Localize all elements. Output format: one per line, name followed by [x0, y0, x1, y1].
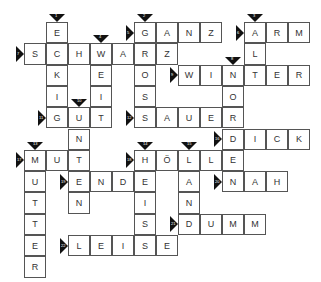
grid-cell[interactable]: L: [68, 235, 90, 256]
clue-number: 14: [143, 142, 147, 146]
clue-number: 10: [77, 99, 81, 103]
grid-cell[interactable]: L: [200, 150, 222, 171]
grid-cell[interactable]: R: [134, 43, 156, 64]
grid-cell[interactable]: E: [24, 235, 46, 256]
grid-cell[interactable]: A: [156, 22, 178, 43]
clue-number: 21: [171, 222, 175, 226]
grid-cell[interactable]: H: [68, 43, 90, 64]
grid-cell[interactable]: A: [112, 43, 134, 64]
grid-cell[interactable]: A: [156, 107, 178, 128]
grid-cell[interactable]: E: [46, 22, 68, 43]
grid-cell[interactable]: K: [288, 129, 310, 150]
grid-cell[interactable]: T: [68, 150, 90, 171]
grid-cell[interactable]: I: [90, 86, 112, 107]
grid-cell[interactable]: A: [244, 22, 266, 43]
grid-cell[interactable]: D: [178, 214, 200, 235]
grid-cell[interactable]: S: [134, 86, 156, 107]
grid-cell[interactable]: E: [90, 65, 112, 86]
grid-cell[interactable]: Z: [200, 22, 222, 43]
grid-cell[interactable]: O: [222, 86, 244, 107]
clue-number: 5: [127, 31, 129, 35]
clue-number: 22: [61, 244, 65, 248]
grid-cell[interactable]: E: [200, 107, 222, 128]
clue-number: 6: [237, 31, 239, 35]
grid-cell[interactable]: H: [134, 150, 156, 171]
grid-cell[interactable]: K: [46, 65, 68, 86]
clue-number: 19: [61, 180, 65, 184]
clue-number: 3: [253, 14, 255, 18]
grid-cell[interactable]: U: [200, 214, 222, 235]
clue-number: 18: [127, 158, 131, 162]
grid-cell[interactable]: R: [24, 256, 46, 277]
clue-number: 15: [187, 142, 191, 146]
grid-cell[interactable]: E: [156, 235, 178, 256]
grid-cell[interactable]: U: [68, 107, 90, 128]
grid-cell[interactable]: D: [222, 129, 244, 150]
grid-cell[interactable]: I: [112, 235, 134, 256]
grid-cell[interactable]: U: [178, 107, 200, 128]
grid-cell[interactable]: S: [24, 43, 46, 64]
grid-cell[interactable]: N: [68, 192, 90, 213]
clue-number: 2: [143, 14, 145, 18]
grid-cell[interactable]: W: [178, 65, 200, 86]
grid-cell[interactable]: N: [90, 171, 112, 192]
grid-cell[interactable]: N: [222, 171, 244, 192]
crossword-grid: ECKIGGROSSALTWEITANZRMSHAZNORDWIERUNTENA…: [0, 0, 321, 282]
grid-cell[interactable]: H: [266, 171, 288, 192]
grid-cell[interactable]: Z: [156, 43, 178, 64]
grid-cell[interactable]: U: [24, 171, 46, 192]
grid-cell[interactable]: E: [90, 235, 112, 256]
grid-cell[interactable]: R: [266, 22, 288, 43]
grid-cell[interactable]: T: [24, 214, 46, 235]
clue-number: 4: [99, 35, 101, 39]
grid-cell[interactable]: E: [222, 150, 244, 171]
grid-cell[interactable]: I: [134, 192, 156, 213]
grid-cell[interactable]: N: [178, 192, 200, 213]
clue-number: 12: [127, 116, 131, 120]
grid-cell[interactable]: S: [134, 214, 156, 235]
grid-cell[interactable]: N: [222, 65, 244, 86]
grid-cell[interactable]: S: [134, 107, 156, 128]
grid-cell[interactable]: M: [222, 214, 244, 235]
grid-cell[interactable]: C: [266, 129, 288, 150]
clue-number: 16: [215, 137, 219, 141]
grid-cell[interactable]: E: [68, 171, 90, 192]
grid-cell[interactable]: A: [244, 171, 266, 192]
grid-cell[interactable]: O: [134, 65, 156, 86]
grid-cell[interactable]: N: [178, 22, 200, 43]
grid-cell[interactable]: R: [288, 65, 310, 86]
clue-number: 20: [215, 180, 219, 184]
grid-cell[interactable]: C: [46, 43, 68, 64]
grid-cell[interactable]: L: [244, 43, 266, 64]
grid-cell[interactable]: G: [46, 107, 68, 128]
clue-number: 13: [33, 142, 37, 146]
grid-cell[interactable]: T: [90, 107, 112, 128]
grid-cell[interactable]: L: [178, 150, 200, 171]
grid-cell[interactable]: A: [178, 171, 200, 192]
clue-number: 11: [39, 116, 43, 120]
grid-cell[interactable]: M: [24, 150, 46, 171]
grid-cell[interactable]: I: [46, 86, 68, 107]
grid-cell[interactable]: M: [244, 214, 266, 235]
grid-cell[interactable]: U: [46, 150, 68, 171]
grid-cell[interactable]: I: [244, 129, 266, 150]
grid-cell[interactable]: W: [90, 43, 112, 64]
grid-cell[interactable]: E: [266, 65, 288, 86]
clue-number: 17: [17, 158, 21, 162]
clue-number: 9: [171, 73, 173, 77]
grid-cell[interactable]: N: [68, 129, 90, 150]
clue-number: 1: [55, 14, 57, 18]
grid-cell[interactable]: E: [134, 171, 156, 192]
grid-cell[interactable]: T: [24, 192, 46, 213]
grid-cell[interactable]: R: [222, 107, 244, 128]
grid-cell[interactable]: S: [134, 235, 156, 256]
grid-cell[interactable]: M: [288, 22, 310, 43]
clue-number: 7: [17, 52, 19, 56]
grid-cell[interactable]: G: [134, 22, 156, 43]
grid-cell[interactable]: D: [112, 171, 134, 192]
grid-cell[interactable]: Ö: [156, 150, 178, 171]
clue-number: 8: [231, 57, 233, 61]
grid-cell[interactable]: T: [244, 65, 266, 86]
grid-cell[interactable]: I: [200, 65, 222, 86]
